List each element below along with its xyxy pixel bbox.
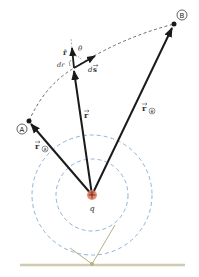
svg-text:θ: θ [78,45,83,53]
point-b [172,22,177,27]
vector-r-hat [72,48,74,68]
stand [20,225,185,266]
theta-arc [73,56,82,60]
svg-text:A: A [20,126,25,134]
label-r-hat: r̂ [63,48,67,57]
svg-text:s: s [93,65,97,74]
label-ds: d s [88,64,98,74]
vector-r-b [92,28,172,195]
charge-q: q [87,190,97,213]
svg-text:dr: dr [57,61,65,69]
svg-text:q: q [89,204,94,213]
label-b: B [177,10,187,20]
r-hat-extension [71,38,72,48]
svg-text:r̂: r̂ [63,48,67,57]
label-theta: θ [78,45,83,53]
electric-potential-path-diagram: A B q r A r r B r̂ θ dr d s [0,0,199,277]
svg-text:B: B [180,12,185,20]
label-dr: dr [57,61,65,69]
path-a-to-b [29,24,174,121]
dr-brace [69,60,71,66]
label-a: A [17,124,27,134]
svg-text:B: B [150,109,153,114]
point-a [27,119,32,124]
label-r: r [84,110,89,120]
label-r-b: r B [142,103,155,114]
